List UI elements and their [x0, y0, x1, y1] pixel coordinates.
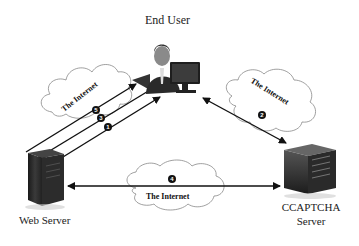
cloud-left: The Internet	[41, 65, 131, 119]
end-user-icon	[132, 45, 200, 95]
step-badge-2: 2	[258, 111, 266, 119]
step-badge-5: 5	[92, 106, 100, 114]
end-user-label: End User	[145, 13, 190, 28]
step-badge-1: 1	[104, 123, 112, 131]
step-badge-3: 3	[97, 114, 105, 122]
step-badge-4: 4	[168, 175, 176, 183]
cloud-bottom-label: The Internet	[146, 192, 190, 201]
ccaptcha-server-icon	[284, 144, 336, 199]
web-server-icon	[25, 149, 65, 210]
web-server-label: Web Server	[19, 214, 70, 226]
ccaptcha-server-label-line2: Server	[297, 215, 326, 227]
cloud-right: The Internet	[226, 69, 315, 131]
ccaptcha-server-label-line1: CCAPTCHA	[282, 201, 341, 213]
cloud-bottom: The Internet	[127, 160, 224, 210]
